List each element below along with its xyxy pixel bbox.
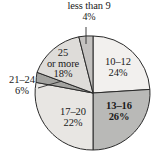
slice-label-13-16-value: 26% (97, 112, 141, 123)
slice-label-less-than-9: less than 9 4% (50, 1, 128, 22)
slice-label-17-20: 17–20 22% (51, 107, 95, 128)
slice-label-25-or-more: 25 or more 18% (36, 48, 90, 80)
slice-label-10-12: 10–12 24% (96, 57, 140, 78)
slice-label-10-12-value: 24% (96, 68, 140, 79)
slice-label-less-than-9-value: 4% (50, 12, 128, 22)
slice-label-17-20-value: 22% (51, 118, 95, 129)
pie-chart-figure: less than 9 4% 10–12 24% 13–16 26% 17–20… (0, 0, 155, 159)
slice-label-13-16: 13–16 26% (97, 101, 141, 122)
slice-label-25-or-more-value: 18% (36, 69, 90, 80)
slice-label-21-24-value: 6% (0, 86, 44, 97)
